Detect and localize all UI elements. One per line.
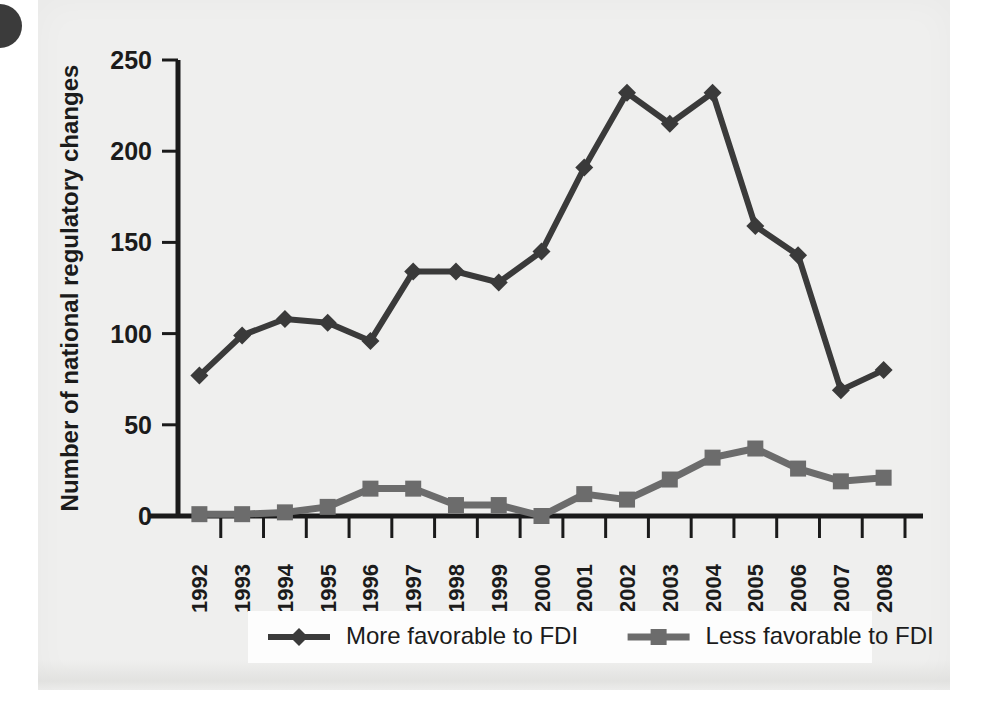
y-tick-label: 250: [110, 46, 152, 74]
x-tick-label: 1992: [187, 564, 212, 613]
x-tick-label: 2006: [786, 564, 811, 613]
data-point-square: [619, 492, 635, 508]
data-point-diamond: [319, 314, 337, 332]
data-point-square: [790, 461, 806, 477]
series-layer: [190, 84, 892, 524]
x-tick-label: 2008: [872, 564, 897, 613]
legend-marker-square: [651, 629, 667, 645]
y-tick-label: 150: [110, 228, 152, 256]
x-tick-label: 2000: [530, 564, 555, 613]
series-line-0: [199, 93, 883, 390]
data-point-square: [191, 506, 207, 522]
x-tick-label: 2005: [743, 564, 768, 613]
x-tick-label: 1997: [401, 564, 426, 613]
y-tick-label: 0: [138, 502, 152, 530]
data-point-square: [405, 481, 421, 497]
y-axis: 050100150200250: [110, 46, 178, 530]
x-tick-label: 1996: [358, 564, 383, 613]
legend-label-0: More favorable to FDI: [346, 622, 578, 649]
y-tick-label: 200: [110, 137, 152, 165]
x-tick-label: 1998: [444, 564, 469, 613]
x-tick-label: 2007: [829, 564, 854, 613]
data-point-square: [833, 473, 849, 489]
x-tick-label: 1993: [230, 564, 255, 613]
data-point-square: [876, 470, 892, 486]
x-tick-label: 2002: [615, 564, 640, 613]
x-tick-label: 1994: [273, 563, 298, 613]
line-chart: 050100150200250 199219931994199519961997…: [0, 0, 1007, 718]
data-point-square: [362, 481, 378, 497]
data-point-diamond: [832, 381, 850, 399]
data-point-square: [747, 441, 763, 457]
data-point-square: [662, 472, 678, 488]
y-tick-label: 100: [110, 320, 152, 348]
y-axis-title-label: Number of national regulatory changes: [56, 65, 83, 512]
legend-label-1: Less favorable to FDI: [706, 622, 934, 649]
x-tick-label: 1995: [316, 564, 341, 613]
data-point-diamond: [447, 263, 465, 281]
data-point-square: [277, 504, 293, 520]
data-point-diamond: [276, 310, 294, 328]
data-point-diamond: [875, 361, 893, 379]
data-point-square: [576, 486, 592, 502]
x-axis: 1992199319941995199619971998199920002001…: [150, 516, 923, 613]
chart-legend: More favorable to FDILess favorable to F…: [248, 611, 934, 663]
data-point-square: [534, 508, 550, 524]
data-point-square: [491, 497, 507, 513]
data-point-square: [234, 506, 250, 522]
data-point-square: [705, 450, 721, 466]
y-axis-title: Number of national regulatory changes: [56, 65, 83, 512]
data-point-square: [448, 497, 464, 513]
y-tick-label: 50: [124, 411, 152, 439]
x-tick-label: 2004: [701, 563, 726, 613]
x-tick-label: 2001: [572, 564, 597, 613]
x-tick-label: 2003: [658, 564, 683, 613]
data-point-square: [320, 499, 336, 515]
x-tick-label: 1999: [487, 564, 512, 613]
series-line-1: [199, 449, 883, 517]
